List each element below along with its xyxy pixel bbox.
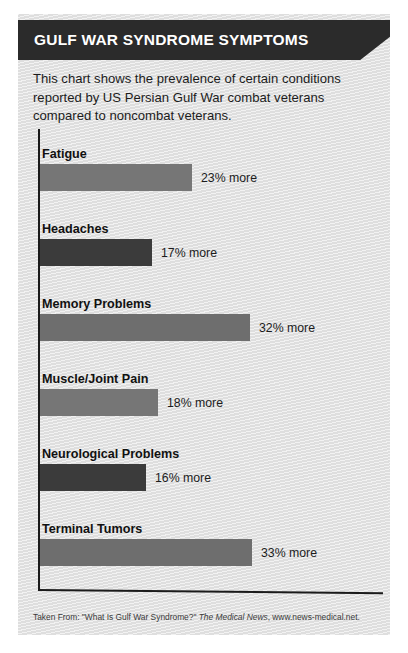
bar [40,539,252,566]
bar-row: 18% more [40,389,380,416]
bar-value-label: 33% more [261,546,317,560]
bar-group: Fatigue23% more [40,147,380,191]
infographic-card: GULF WAR SYNDROME SYMPTOMS This chart sh… [18,14,390,635]
bar-group: Muscle/Joint Pain18% more [40,372,380,416]
bar-group: Headaches17% more [40,222,380,266]
bar-value-label: 32% more [259,321,315,335]
footer-prefix: Taken From: "What Is Gulf War Syndrome?" [33,612,199,622]
title-banner: GULF WAR SYNDROME SYMPTOMS [18,20,390,60]
bar-value-label: 16% more [155,471,211,485]
bar-row: 33% more [40,539,380,566]
bar [40,314,250,341]
bar [40,464,146,491]
bar [40,389,158,416]
axis-horizontal-line [38,589,383,594]
bar-row: 32% more [40,314,380,341]
bar-group: Terminal Tumors33% more [40,522,380,566]
bar-chart: Fatigue23% moreHeadaches17% moreMemory P… [18,127,390,592]
bar-label: Headaches [42,222,380,236]
bar-row: 16% more [40,464,380,491]
bar [40,239,152,266]
bar-value-label: 17% more [161,246,217,260]
intro-paragraph: This chart shows the prevalence of certa… [33,70,378,126]
bar-row: 17% more [40,239,380,266]
bar-label: Memory Problems [42,297,380,311]
bar-label: Muscle/Joint Pain [42,372,380,386]
bar-label: Terminal Tumors [42,522,380,536]
bar [40,164,192,191]
page-title: GULF WAR SYNDROME SYMPTOMS [18,31,308,49]
footer-citation: Taken From: "What Is Gulf War Syndrome?"… [33,612,383,622]
bar-value-label: 23% more [201,171,257,185]
bar-group: Memory Problems32% more [40,297,380,341]
footer-suffix: , www.news-medical.net. [268,612,360,622]
bar-group: Neurological Problems16% more [40,447,380,491]
bar-row: 23% more [40,164,380,191]
bar-label: Neurological Problems [42,447,380,461]
bar-label: Fatigue [42,147,380,161]
bar-value-label: 18% more [167,396,223,410]
footer-source: The Medical News [199,612,268,622]
